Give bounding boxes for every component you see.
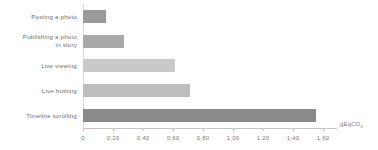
x-axis-tick (233, 128, 234, 131)
bar-timeline-scrolling (83, 109, 316, 122)
x-axis-unit-main: gEqCO (340, 121, 360, 127)
bar-live-hosting (83, 84, 190, 97)
category-label: Publishing a photo in story (0, 33, 77, 49)
x-axis-tick (173, 128, 174, 131)
category-label: Posting a photo (0, 13, 77, 21)
x-axis-tick-label: 1,00 (227, 135, 239, 141)
x-axis-tick-label: 1,20 (257, 135, 269, 141)
x-axis-tick-label: 1,60 (317, 135, 329, 141)
category-label: Timeline scrolling (0, 112, 77, 120)
x-axis-tick (203, 128, 204, 131)
x-axis-tick (113, 128, 114, 131)
bar-publishing-a-photo-in-story (83, 35, 124, 48)
bar-row (83, 78, 323, 103)
bar-live-viewing (83, 59, 175, 72)
x-axis-line (83, 128, 337, 129)
bar-row (83, 103, 323, 128)
x-axis-tick (293, 128, 294, 131)
category-label: Live hosting (0, 87, 77, 95)
x-axis-tick (263, 128, 264, 131)
x-axis-tick-label: 0,40 (137, 135, 149, 141)
plot-area (83, 4, 323, 128)
x-axis-tick (143, 128, 144, 131)
bar-row (83, 54, 323, 79)
x-axis-unit-label: gEqCO2 (340, 121, 363, 129)
bar-row (83, 4, 323, 29)
bar-posting-a-photo (83, 10, 106, 23)
x-axis-tick-label: 0,80 (197, 135, 209, 141)
x-axis-tick (83, 128, 84, 131)
bar-chart: Posting a photo Publishing a photo in st… (0, 0, 378, 150)
category-label: Live viewing (0, 62, 77, 70)
x-axis-tick (323, 128, 324, 131)
x-axis-tick-label: 0,20 (107, 135, 119, 141)
x-axis-tick-label: 1,40 (287, 135, 299, 141)
x-axis-tick-label: 0,60 (167, 135, 179, 141)
x-axis-unit-subscript: 2 (360, 124, 363, 129)
bar-row (83, 29, 323, 54)
x-axis-tick-label: 0 (81, 135, 85, 141)
